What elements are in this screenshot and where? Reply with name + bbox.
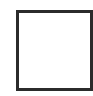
empty-checkbox[interactable]	[16, 10, 93, 91]
